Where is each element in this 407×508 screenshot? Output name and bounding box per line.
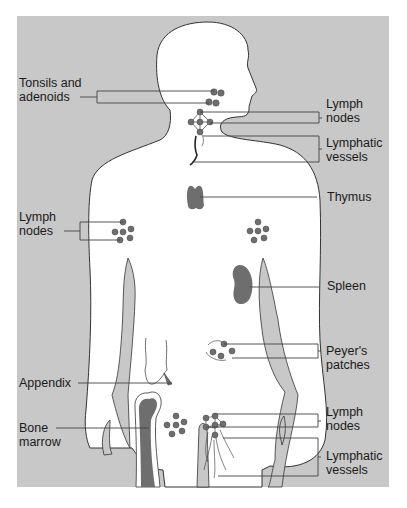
label-line: vessels (326, 150, 383, 164)
label-line: patches (326, 358, 370, 372)
label-line: Lymphatic (326, 449, 383, 463)
leg-divider (197, 424, 209, 488)
thymus-organ (187, 186, 204, 210)
label-line: Appendix (19, 376, 71, 390)
label-line: Lymph (326, 97, 363, 111)
label-peyers-patches: Peyer's patches (326, 344, 370, 372)
label-groin-lymph-nodes: Lymph nodes (326, 405, 363, 433)
label-spleen: Spleen (327, 279, 366, 293)
label-line: nodes (326, 419, 363, 433)
label-line: vessels (326, 463, 383, 477)
label-tonsils-adenoids: Tonsils and adenoids (19, 76, 82, 104)
label-line: Tonsils and (19, 76, 82, 90)
label-groin-lymphatic-vessels: Lymphatic vessels (326, 449, 383, 477)
label-line: Peyer's (326, 344, 370, 358)
label-line: Spleen (327, 279, 366, 293)
label-line: Bone (19, 421, 61, 435)
label-line: marrow (19, 435, 61, 449)
label-line: Thymus (327, 190, 371, 204)
label-bone-marrow: Bone marrow (19, 421, 61, 449)
label-line: nodes (326, 111, 363, 125)
label-neck-lymphatic-vessels: Lymphatic vessels (326, 136, 383, 164)
label-line: nodes (19, 224, 56, 238)
label-neck-lymph-nodes: Lymph nodes (326, 97, 363, 125)
label-line: Lymph (19, 210, 56, 224)
label-line: Lymphatic (326, 136, 383, 150)
label-armpit-lymph-nodes: Lymph nodes (19, 210, 56, 238)
label-appendix: Appendix (19, 376, 71, 390)
label-line: Lymph (326, 405, 363, 419)
label-thymus: Thymus (327, 190, 371, 204)
label-line: adenoids (19, 90, 82, 104)
